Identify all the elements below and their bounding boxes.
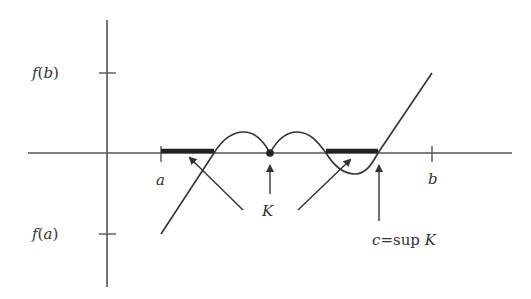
label-f-b: f(b) [31,64,59,82]
label-f-a: f(a) [31,225,58,243]
label-a: a [156,171,165,189]
k-point [266,149,274,157]
ivt-diagram: f(b) f(a) a b K c=sup K [0,0,531,299]
label-sup-k: c=sup K [372,231,437,249]
arrow-to-k-segment-1 [190,158,243,210]
label-b: b [428,170,438,188]
label-k: K [261,202,274,220]
arrow-to-k-segment-2 [298,160,350,210]
